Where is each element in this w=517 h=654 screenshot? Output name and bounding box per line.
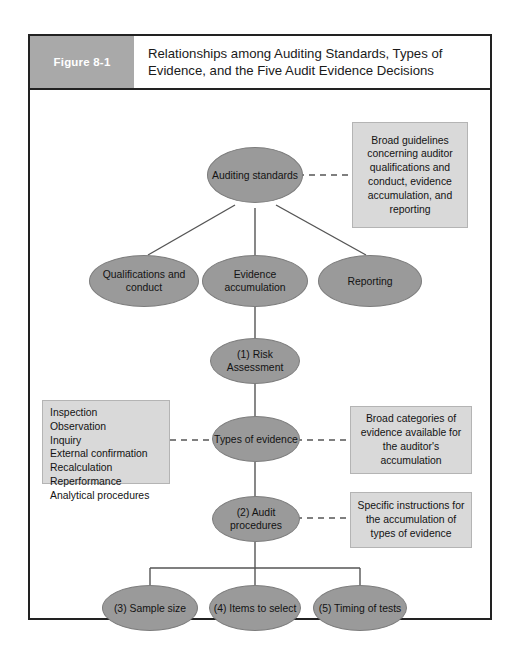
list-item: External confirmation [50, 447, 162, 461]
figure-frame: Figure 8-1 Relationships among Auditing … [28, 34, 492, 620]
node-types-of-evidence[interactable]: Types of evidence [212, 416, 300, 462]
node-reporting[interactable]: Reporting [318, 255, 422, 307]
callout-auditing-standards-note: Broad guidelines concerning auditor qual… [352, 122, 468, 228]
connector-standards-to-qualifications [148, 205, 235, 255]
list-item: Observation [50, 420, 162, 434]
list-item: Recalculation [50, 461, 162, 475]
figure-title: Relationships among Auditing Standards, … [134, 36, 490, 88]
node-qualifications-and-conduct[interactable]: Qualifications and conduct [89, 255, 199, 307]
figure-number-label: Figure 8-1 [30, 36, 134, 88]
node-timing-of-tests[interactable]: (5) Timing of tests [313, 585, 407, 631]
diagram-canvas: Auditing standards Qualifications and co… [30, 90, 490, 620]
node-auditing-standards[interactable]: Auditing standards [207, 147, 303, 203]
callout-procedures-note: Specific instructions for the accumulati… [350, 492, 472, 548]
list-item: Inquiry [50, 434, 162, 448]
node-items-to-select[interactable]: (4) Items to select [209, 585, 301, 631]
list-item: Reperformance [50, 475, 162, 489]
node-audit-procedures[interactable]: (2) Audit procedures [212, 496, 300, 542]
node-evidence-accumulation[interactable]: Evidence accumulation [202, 255, 308, 307]
node-risk-assessment[interactable]: (1) Risk Assessment [210, 338, 300, 384]
callout-evidence-types-list: Inspection Observation Inquiry External … [42, 400, 170, 484]
node-sample-size[interactable]: (3) Sample size [102, 585, 198, 631]
callout-evidence-note: Broad categories of evidence available f… [350, 406, 472, 474]
list-item: Inspection [50, 406, 162, 420]
figure-header: Figure 8-1 Relationships among Auditing … [30, 36, 490, 90]
list-item: Analytical procedures [50, 489, 162, 503]
